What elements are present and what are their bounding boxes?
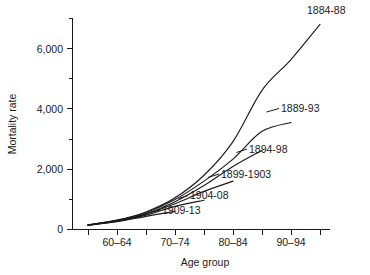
series-label-1884-88: 1884-88 — [307, 4, 346, 16]
series-label-1909-13: 1909-13 — [162, 204, 201, 216]
y-axis-title: Mortality rate — [6, 94, 18, 155]
xtick-label-80-84: 80–84 — [218, 236, 247, 248]
series-label-1889-93: 1889-93 — [281, 102, 320, 114]
mortality-rate-chart: 0 2,000 4,000 6,000 Mortality rate 60–64… — [0, 0, 370, 275]
xtick-label-70-74: 70–74 — [160, 236, 189, 248]
series-label-1904-08: 1904-08 — [190, 189, 229, 201]
ytick-label-2000: 2,000 — [37, 163, 63, 175]
ytick-label-4000: 4,000 — [37, 103, 63, 115]
ytick-label-0: 0 — [57, 223, 63, 235]
xtick-label-90-94: 90–94 — [276, 236, 305, 248]
xtick-label-60-64: 60–64 — [102, 236, 131, 248]
chart-canvas: 0 2,000 4,000 6,000 Mortality rate 60–64… — [0, 0, 370, 275]
series-label-1899-1903: 1899-1903 — [221, 168, 271, 180]
series-label-1894-98: 1894-98 — [249, 143, 288, 155]
x-axis-title: Age group — [181, 256, 230, 268]
chart-background — [0, 0, 370, 275]
ytick-label-6000: 6,000 — [37, 43, 63, 55]
